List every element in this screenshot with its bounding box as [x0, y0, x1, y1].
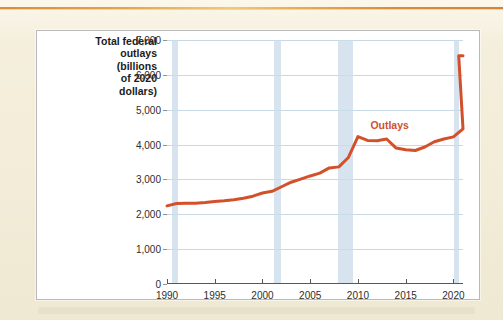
ghost-text-line [38, 307, 475, 314]
x-axis-tick [215, 279, 216, 284]
y-axis-tick-label: 0 [155, 279, 161, 290]
x-axis-tick-label: 2005 [299, 290, 321, 301]
plot-area: Outlays 01,0002,0003,0004,0005,0006,0007… [167, 40, 463, 284]
y-axis-tick [163, 75, 167, 76]
y-axis-tick [163, 214, 167, 215]
y-axis-tick-label: 2,000 [136, 209, 161, 220]
y-axis-title-line: outlays [45, 47, 157, 59]
x-axis-line [167, 283, 463, 284]
y-axis-tick [163, 145, 167, 146]
y-axis-tick-label: 5,000 [136, 104, 161, 115]
y-axis-tick [163, 110, 167, 111]
series-annotation-outlays: Outlays [370, 119, 409, 131]
page-background: Total federaloutlays(billionsof 2020doll… [0, 0, 503, 320]
x-axis-tick [453, 279, 454, 284]
y-axis-tick [163, 249, 167, 250]
x-axis-tick [406, 279, 407, 284]
x-axis-tick-label: 1995 [204, 290, 226, 301]
x-axis-tick [167, 279, 168, 284]
y-axis-tick-label: 6,000 [136, 69, 161, 80]
top-orange-rule-shadow [0, 9, 503, 10]
y-axis-tick-label: 3,000 [136, 174, 161, 185]
y-axis-tick [163, 284, 167, 285]
y-axis-tick-label: 7,000 [136, 35, 161, 46]
x-axis-tick-label: 2000 [251, 290, 273, 301]
outlays-line-series [167, 40, 463, 284]
x-axis-tick-label: 2020 [442, 290, 464, 301]
y-axis-tick [163, 179, 167, 180]
x-axis-tick-label: 2015 [395, 290, 417, 301]
chart-panel: Total federaloutlays(billionsof 2020doll… [36, 30, 480, 300]
x-axis-tick-label: 1990 [156, 290, 178, 301]
y-axis-tick-label: 4,000 [136, 139, 161, 150]
x-axis-tick [262, 279, 263, 284]
x-axis-tick-label: 2010 [347, 290, 369, 301]
y-axis-title-line: dollars) [45, 85, 157, 97]
y-axis-tick-label: 1,000 [136, 244, 161, 255]
x-axis-tick [310, 279, 311, 284]
x-axis-tick [358, 279, 359, 284]
y-axis-tick [163, 40, 167, 41]
